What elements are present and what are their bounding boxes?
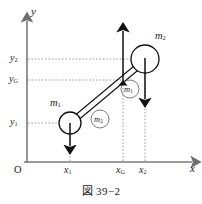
y-tick-y1: y1 xyxy=(10,117,18,128)
x-tick-x1: x1 xyxy=(64,165,72,176)
guide-lines xyxy=(28,59,145,161)
x-axis-label: x xyxy=(190,163,195,174)
axis-lines xyxy=(24,21,192,163)
mass-label-m2: m2 xyxy=(155,31,166,42)
diagram-canvas xyxy=(0,0,202,204)
x-tick-xG: xG xyxy=(116,165,125,176)
figure-39-2: y x O y2 yG y1 x1 xG x2 m1 m2 m2 m1 図 39… xyxy=(0,0,202,204)
x-tick-x2: x2 xyxy=(139,165,147,176)
figure-caption: 図 39−2 xyxy=(0,182,202,198)
y-tick-y2: y2 xyxy=(10,53,18,64)
y-axis-label: y xyxy=(31,6,36,17)
circled-label-m1: m1 xyxy=(124,85,133,94)
circled-label-m2: m2 xyxy=(94,115,103,124)
origin-label: O xyxy=(14,164,22,175)
y-tick-yG: yG xyxy=(9,74,18,85)
mass-label-m1: m1 xyxy=(50,98,61,109)
